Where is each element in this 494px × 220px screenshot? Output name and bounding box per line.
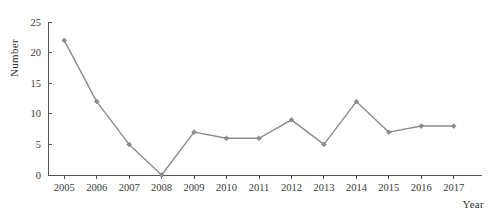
y-tick-label: 0 — [36, 170, 41, 181]
x-axis-ticks: 2005200620072008200920102011201220132014… — [54, 175, 465, 193]
y-tick-label: 10 — [31, 108, 42, 119]
x-tick-label: 2005 — [54, 182, 75, 193]
x-tick-label: 2013 — [313, 182, 334, 193]
y-tick-label: 5 — [36, 139, 41, 150]
y-axis-ticks: 0510152025 — [31, 17, 53, 181]
x-tick-label: 2007 — [119, 182, 140, 193]
x-tick-label: 2017 — [443, 182, 464, 193]
data-point — [451, 124, 456, 129]
line-chart: Number Year 0510152025 20052006200720082… — [0, 0, 494, 220]
x-tick-label: 2015 — [378, 182, 399, 193]
data-markers — [62, 38, 456, 177]
x-tick-label: 2014 — [346, 182, 368, 193]
x-tick-label: 2006 — [86, 182, 107, 193]
data-line-number — [64, 40, 454, 175]
plot-area: 0510152025 20052006200720082009201020112… — [0, 0, 494, 220]
data-point — [419, 124, 424, 129]
data-point — [224, 136, 229, 141]
x-tick-label: 2011 — [249, 182, 270, 193]
y-tick-label: 20 — [31, 47, 42, 58]
x-tick-label: 2010 — [216, 182, 237, 193]
x-tick-label: 2012 — [281, 182, 302, 193]
x-tick-label: 2016 — [411, 182, 432, 193]
x-tick-label: 2008 — [151, 182, 172, 193]
x-tick-label: 2009 — [184, 182, 205, 193]
y-tick-label: 25 — [31, 17, 42, 28]
y-tick-label: 15 — [31, 78, 42, 89]
